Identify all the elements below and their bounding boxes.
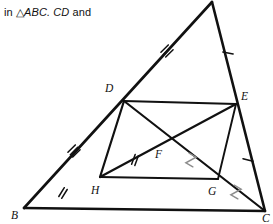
segment-DE: [124, 101, 236, 104]
segment-AC: [212, 2, 265, 211]
vertex-label-d: D: [104, 82, 114, 94]
tick-BH: [59, 188, 67, 199]
segment-BC: [24, 208, 265, 211]
figure-stage: in △ABC. CD and BCDEFGH: [0, 0, 273, 224]
vertex-label-f: F: [154, 148, 163, 160]
tick-DF: [184, 153, 198, 167]
vertex-label-g: G: [208, 185, 217, 197]
vertex-label-h: H: [90, 184, 100, 196]
segment-HG: [100, 177, 218, 179]
edges-layer: [24, 2, 265, 211]
geometry-diagram: BCDEFGH: [0, 0, 273, 224]
vertex-label-e: E: [240, 90, 248, 102]
tick-marks-layer: [59, 45, 253, 199]
vertex-label-c: C: [262, 212, 270, 224]
segment-EG: [218, 104, 236, 179]
vertex-label-b: B: [11, 209, 18, 221]
